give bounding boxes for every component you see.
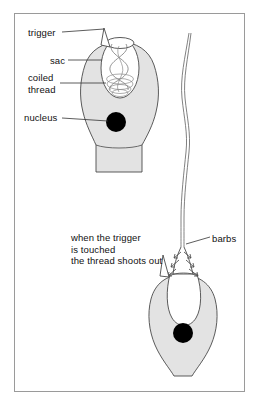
nucleus-undischarged (106, 112, 126, 132)
barb-left-1 (174, 252, 181, 258)
label-trigger: trigger (28, 27, 56, 39)
barb-right-2 (186, 260, 194, 267)
leader-trigger (62, 29, 104, 32)
caption-line-1: when the trigger (71, 232, 162, 244)
label-coiled-line2: thread (28, 84, 56, 96)
label-barbs: barbs (212, 233, 236, 245)
leader-barbs (186, 237, 210, 244)
barbs-group (168, 252, 198, 276)
nematocyst-diagram (0, 0, 259, 401)
everted-thread (181, 33, 191, 247)
caption-line-3: the thread shoots out (71, 255, 162, 267)
caption-block: when the trigger is touched the thread s… (71, 232, 162, 267)
barb-left-2 (171, 260, 179, 267)
sac-discharged (167, 274, 200, 326)
figure-root: trigger sac coiled thread nucleus barbs … (0, 0, 259, 401)
nucleus-discharged (173, 323, 193, 343)
barb-right-1 (184, 252, 191, 258)
undischarged-cell-group (81, 28, 159, 172)
label-sac: sac (50, 55, 65, 67)
caption-line-2: is touched (71, 244, 162, 256)
trigger-spike (101, 28, 110, 47)
label-coiled-line1: coiled (28, 72, 56, 84)
label-coiled-thread: coiled thread (28, 72, 56, 95)
label-nucleus: nucleus (24, 112, 57, 124)
